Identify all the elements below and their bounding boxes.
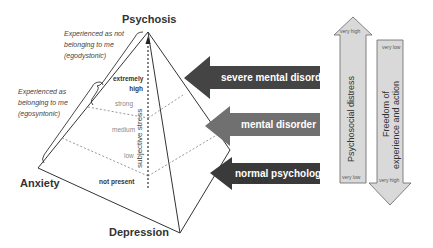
distress-bottom-label: very low <box>342 174 360 180</box>
vertex-depression: Depression <box>109 226 169 238</box>
level-strong: strong <box>115 100 133 107</box>
level-not-present: not present <box>99 178 134 185</box>
axis-label-subjective-stress: subjective stress <box>135 109 144 168</box>
vertex-psychosis: Psychosis <box>122 13 176 25</box>
distress-label: Psychosocial distress <box>346 76 356 162</box>
freedom-top-label: very low <box>382 44 400 50</box>
distress-top-label: very high <box>340 28 360 34</box>
edge-top-bottom <box>148 32 180 233</box>
arrow-label-normal: normal psychological <box>235 168 338 179</box>
arrow-label-severe: severe mental disorder <box>221 72 331 83</box>
freedom-label-line1: Freedom of <box>381 91 391 137</box>
egodystonic-note: Experienced as not belonging to me (egod… <box>64 28 124 61</box>
vertex-anxiety: Anxiety <box>20 177 60 189</box>
arrow-label-mental: mental disorder <box>241 119 316 130</box>
level-medium: medium <box>112 126 135 133</box>
level-extremely-high: extremely high <box>113 74 143 94</box>
freedom-label-line2: experience and action <box>391 81 401 169</box>
freedom-bottom-label: very high <box>379 177 399 183</box>
level-low: low <box>124 152 134 159</box>
edge-bottom-right <box>180 150 230 233</box>
egosyntonic-note: Experienced as belonging to me (egosynto… <box>18 86 68 119</box>
